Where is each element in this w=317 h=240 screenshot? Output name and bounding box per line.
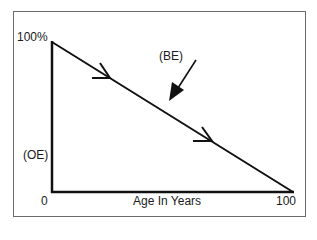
pointer-label: (BE) (159, 50, 183, 62)
direction-arrowhead-icon (92, 63, 110, 78)
decline-line (52, 42, 293, 192)
x-axis-title: Age In Years (133, 195, 201, 207)
x-axis-origin-label: 0 (41, 195, 48, 207)
y-axis-top-label: 100% (17, 31, 48, 43)
pointer-arrow-icon (169, 60, 196, 101)
y-axis-side-label: (OE) (23, 149, 48, 161)
x-axis-end-label: 100 (276, 195, 296, 207)
